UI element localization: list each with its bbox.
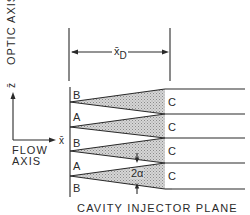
optic-axis-symbol: z̄ bbox=[6, 82, 17, 88]
region-label-c1: C bbox=[168, 97, 176, 108]
flow-axis-arrowhead bbox=[49, 138, 56, 143]
dimension-label: x̄D bbox=[114, 46, 127, 57]
region-label-b3: B bbox=[73, 183, 80, 194]
dimension-right-arrowhead bbox=[162, 50, 169, 55]
region-label-a2: A bbox=[73, 161, 80, 172]
region-label-b1: B bbox=[73, 90, 80, 101]
diagram-caption: CAVITY INJECTOR PLANE bbox=[77, 203, 238, 214]
region-label-c2: C bbox=[168, 122, 176, 133]
region-label-c4: C bbox=[168, 171, 176, 182]
angle-label: 2α bbox=[130, 168, 144, 179]
optic-axis-label: OPTIC AXIS bbox=[6, 0, 17, 65]
region-label-b2: B bbox=[73, 138, 80, 149]
flow-axis-symbol: x̄ bbox=[59, 135, 64, 146]
region-label-c3: C bbox=[168, 146, 176, 157]
optic-axis-arrowhead bbox=[11, 92, 16, 99]
dimension-subscript: D bbox=[120, 50, 127, 61]
dimension-left-arrowhead bbox=[71, 50, 78, 55]
injector-diagram bbox=[0, 0, 250, 215]
flow-axis-label-line2: AXIS bbox=[12, 156, 41, 167]
alpha-top-arrowhead bbox=[135, 158, 139, 164]
dimension-symbol: x̄ bbox=[114, 45, 120, 57]
region-label-a1: A bbox=[73, 112, 80, 123]
